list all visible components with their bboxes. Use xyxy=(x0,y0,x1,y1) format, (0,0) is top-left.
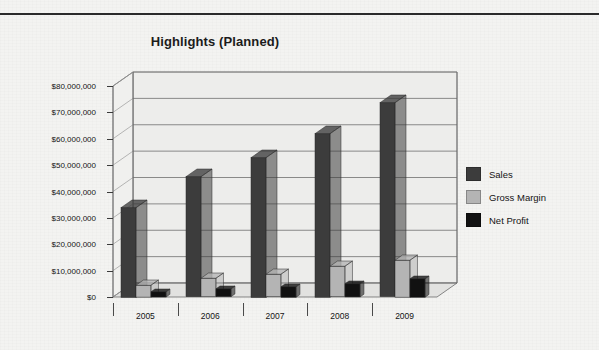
x-axis-tick xyxy=(178,303,179,316)
bar-gross-margin-2009 xyxy=(395,260,410,297)
y-axis-tick-label: $70,000,000 xyxy=(18,108,96,117)
bar-shape xyxy=(151,289,172,299)
bar-shape xyxy=(410,276,431,299)
y-axis-tick-label: $50,000,000 xyxy=(18,161,96,170)
bar-sales-2007 xyxy=(251,157,266,297)
x-axis-category-label: 2009 xyxy=(382,311,428,321)
x-axis-tick xyxy=(243,303,244,316)
y-axis-tick xyxy=(107,271,113,272)
y-axis-tick-label: $20,000,000 xyxy=(18,240,96,249)
y-axis-tick xyxy=(107,244,113,245)
bar-net-profit-2005 xyxy=(151,292,166,297)
chart-legend: SalesGross MarginNet Profit xyxy=(466,167,546,236)
y-axis-tick xyxy=(107,112,113,113)
y-axis-tick-label: $0 xyxy=(18,293,96,302)
legend-item[interactable]: Gross Margin xyxy=(466,190,546,204)
bar-sales-2005 xyxy=(121,207,136,297)
legend-label: Sales xyxy=(489,169,513,180)
x-axis-category-label: 2006 xyxy=(187,311,233,321)
x-axis-tick xyxy=(113,303,114,316)
bar-shape xyxy=(345,281,366,299)
bar-net-profit-2009 xyxy=(410,279,425,297)
y-axis-tick xyxy=(107,165,113,166)
x-axis-category-label: 2005 xyxy=(122,311,168,321)
legend-swatch-icon xyxy=(466,213,481,227)
x-axis-tick xyxy=(307,303,308,316)
legend-label: Net Profit xyxy=(489,215,529,226)
y-axis-tick xyxy=(107,86,113,87)
y-axis-tick-label: $40,000,000 xyxy=(18,187,96,196)
bar-net-profit-2007 xyxy=(281,286,296,297)
bar-sales-2006 xyxy=(186,177,201,297)
bar-gross-margin-2008 xyxy=(330,267,345,297)
bar-shape xyxy=(216,286,237,299)
bar-sales-2009 xyxy=(380,103,395,297)
y-axis-tick xyxy=(107,218,113,219)
y-axis-tick-label: $60,000,000 xyxy=(18,134,96,143)
x-axis-category-label: 2007 xyxy=(252,311,298,321)
legend-item[interactable]: Net Profit xyxy=(466,213,546,227)
legend-swatch-icon xyxy=(466,167,481,181)
bar-sales-2008 xyxy=(315,133,330,297)
bar-gross-margin-2006 xyxy=(201,279,216,297)
y-axis-tick xyxy=(107,192,113,193)
y-axis-tick-label: $80,000,000 xyxy=(18,82,96,91)
x-axis-category-label: 2008 xyxy=(317,311,363,321)
bar-gross-margin-2005 xyxy=(136,285,151,297)
y-axis-tick-label: $30,000,000 xyxy=(18,213,96,222)
bar-gross-margin-2007 xyxy=(266,275,281,297)
legend-item[interactable]: Sales xyxy=(466,167,546,181)
legend-label: Gross Margin xyxy=(489,192,546,203)
y-axis-tick xyxy=(107,139,113,140)
bar-net-profit-2006 xyxy=(216,289,231,297)
bar-shape xyxy=(281,284,302,299)
legend-swatch-icon xyxy=(466,190,481,204)
y-axis-tick xyxy=(107,297,113,298)
bar-net-profit-2008 xyxy=(345,284,360,297)
y-axis-tick-label: $10,000,000 xyxy=(18,266,96,275)
x-axis-tick xyxy=(372,303,373,316)
